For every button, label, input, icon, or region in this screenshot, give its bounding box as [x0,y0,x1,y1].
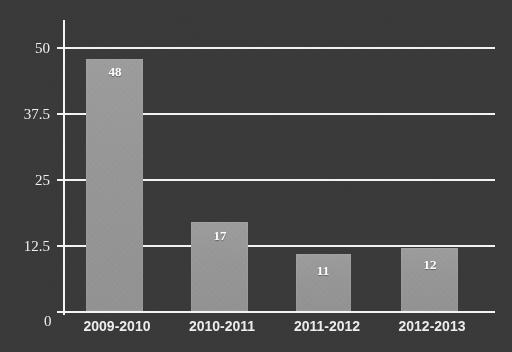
bar-value-label-2012-2013: 12 [424,257,437,273]
bar-2009-2010 [86,59,143,311]
gridline-50 [63,47,495,49]
y-tick-label-37-5: 37.5 [0,106,50,123]
bar-value-label-2009-2010: 48 [109,64,122,80]
y-axis-line [63,20,65,315]
x-tick-label-2011-2012: 2011-2012 [272,318,382,334]
chart-plot-area: 50 37.5 25 12.5 0 48 17 11 12 2009-2010 … [0,0,512,352]
x-tick-label-2012-2013: 2012-2013 [377,318,487,334]
y-tick-label-12-5: 12.5 [0,238,50,255]
x-tick-label-2009-2010: 2009-2010 [62,318,172,334]
bar-value-label-2010-2011: 17 [214,228,227,244]
y-tick-label-25: 25 [0,172,50,189]
y-tick-label-0: 0 [44,313,52,330]
bar-chart-screenshot: 50 37.5 25 12.5 0 48 17 11 12 2009-2010 … [0,0,512,352]
bar-value-label-2011-2012: 11 [317,263,329,279]
y-tick-label-50: 50 [0,40,50,57]
x-tick-label-2010-2011: 2010-2011 [167,318,277,334]
x-axis-line [63,311,495,313]
